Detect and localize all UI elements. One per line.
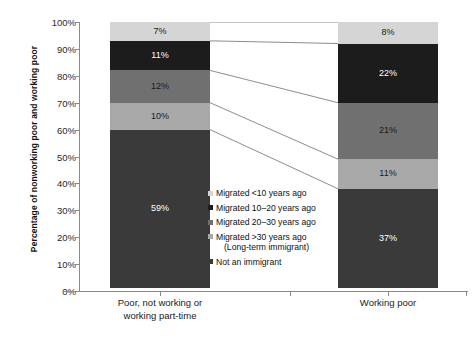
bar-segment-b2030[interactable]: 21% xyxy=(338,103,438,159)
segment-value-label: 21% xyxy=(379,126,397,135)
y-tick-label: 10% xyxy=(36,259,76,270)
y-tick-mark xyxy=(75,210,80,211)
legend-swatch-icon xyxy=(208,259,213,264)
bar-segment-native[interactable]: 37% xyxy=(338,189,438,289)
connector-line xyxy=(210,41,338,44)
y-tick-mark xyxy=(75,157,80,158)
y-tick-label: 20% xyxy=(36,232,76,243)
legend-item-1[interactable]: Migrated 10–20 years ago xyxy=(208,203,338,214)
segment-value-label: 59% xyxy=(151,204,169,213)
segment-value-label: 37% xyxy=(379,234,397,243)
y-tick-label: 40% xyxy=(36,178,76,189)
legend-swatch-icon xyxy=(208,191,213,196)
x-tick-mark xyxy=(160,292,161,296)
y-tick-mark xyxy=(75,76,80,77)
legend-swatch-icon xyxy=(208,234,213,239)
y-tick-mark xyxy=(75,264,80,265)
segment-value-label: 11% xyxy=(379,169,396,178)
bar-segment-b2030[interactable]: 12% xyxy=(110,70,210,102)
y-tick-label: 80% xyxy=(36,70,76,81)
bar-segment-gt30[interactable]: 11% xyxy=(338,159,438,189)
bar-working-poor[interactable]: 8%22%21%11%37% xyxy=(338,22,438,291)
bar-segment-native[interactable]: 59% xyxy=(110,130,210,289)
legend-item-2[interactable]: Migrated 20–30 years ago xyxy=(208,217,338,228)
legend-item-0[interactable]: Migrated <10 years ago xyxy=(208,188,338,199)
connector-line xyxy=(210,70,338,102)
segment-value-label: 10% xyxy=(151,112,169,121)
y-tick-label: 30% xyxy=(36,205,76,216)
y-tick-mark xyxy=(75,22,80,23)
legend-swatch-icon xyxy=(208,220,213,225)
y-tick-mark xyxy=(75,183,80,184)
segment-value-label: 22% xyxy=(379,69,397,78)
legend: Migrated <10 years agoMigrated 10–20 yea… xyxy=(208,188,338,271)
y-tick-label: 100% xyxy=(36,17,76,28)
x-axis-line xyxy=(64,291,468,292)
legend-item-label: Migrated 20–30 years ago xyxy=(216,217,316,228)
segment-value-label: 8% xyxy=(381,28,394,37)
segment-value-label: 7% xyxy=(153,27,166,36)
legend-item-label: Migrated >30 years ago xyxy=(216,232,309,243)
y-tick-mark xyxy=(75,49,80,50)
x-tick-label-line1: Poor, not working or xyxy=(118,296,203,309)
legend-item-sublabel: (Long-term immigrant) xyxy=(216,242,309,253)
legend-swatch-icon xyxy=(208,205,213,210)
y-tick-label: 60% xyxy=(36,124,76,135)
bar-segment-lt10[interactable]: 7% xyxy=(110,22,210,41)
bar-segment-b1020[interactable]: 11% xyxy=(110,41,210,71)
bar-segment-gt30[interactable]: 10% xyxy=(110,103,210,130)
segment-value-label: 11% xyxy=(151,51,168,60)
connector-line xyxy=(210,130,338,189)
y-tick-mark xyxy=(75,291,80,292)
segment-value-label: 12% xyxy=(151,82,169,91)
x-tick-label-working-poor: Working poor xyxy=(360,296,416,309)
bar-segment-b1020[interactable]: 22% xyxy=(338,44,438,103)
x-tick-mark xyxy=(466,292,467,296)
y-tick-label: 50% xyxy=(36,151,76,162)
y-tick-mark xyxy=(75,130,80,131)
y-tick-mark xyxy=(75,237,80,238)
x-tick-mark xyxy=(388,292,389,296)
legend-item-label: Not an immigrant xyxy=(216,257,281,268)
stacked-bar-chart: Percentage of nonworking poor and workin… xyxy=(0,0,475,347)
legend-item-4[interactable]: Not an immigrant xyxy=(208,257,338,268)
y-axis-tick-labels: 100%90%80%70%60%50%40%30%20%10%0% xyxy=(32,0,76,347)
y-tick-label: 70% xyxy=(36,97,76,108)
legend-item-label: Migrated 10–20 years ago xyxy=(216,203,316,214)
legend-item-3[interactable]: Migrated >30 years ago(Long-term immigra… xyxy=(208,232,338,253)
connector-line xyxy=(210,103,338,159)
x-tick-label-line2: working part-time xyxy=(118,309,203,322)
y-tick-mark xyxy=(75,103,80,104)
bar-segment-lt10[interactable]: 8% xyxy=(338,22,438,44)
x-tick-label-line1: Working poor xyxy=(360,296,416,309)
bar-poor-not-working[interactable]: 7%11%12%10%59% xyxy=(110,22,210,291)
x-tick-label-poor-not-working: Poor, not working or working part-time xyxy=(118,296,203,322)
y-tick-label: 90% xyxy=(36,43,76,54)
legend-item-label: Migrated <10 years ago xyxy=(216,188,307,199)
x-tick-mark xyxy=(290,292,291,296)
